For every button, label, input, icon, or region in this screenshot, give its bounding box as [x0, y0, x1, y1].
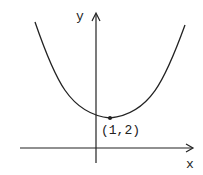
- x-axis-label: x: [186, 157, 194, 172]
- y-axis: [92, 13, 100, 163]
- parabola-diagram: x y (1,2): [0, 0, 203, 175]
- x-axis: [20, 144, 193, 152]
- vertex-point: [108, 116, 112, 120]
- vertex-label: (1,2): [101, 123, 140, 138]
- y-axis-label: y: [76, 9, 84, 24]
- parabola-curve: [35, 22, 185, 118]
